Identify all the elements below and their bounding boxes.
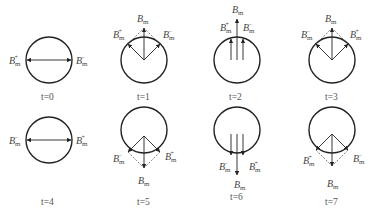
label-right: Bm− [243,21,255,35]
label-left: Bm+ [303,154,315,168]
panel-t5: Bm− Bm+ Bm t=5 [113,107,177,207]
panel-t2: Bm Bm+ Bm− t=2 [214,4,260,102]
label-left: Bm− [113,152,125,166]
label-right: Bm+ [76,134,88,148]
time-label: t=2 [229,92,242,102]
label-resultant: Bm [232,4,244,17]
label-right: Bm+ [350,28,362,42]
label-left: Bm+ [113,28,125,42]
label-left: Bm+ [220,21,232,35]
panel-t4: Bm− Bm+ t=4 [9,117,88,207]
diagram-svg: Bm+ Bm− t=0 Bm Bm+ Bm− t=1 Bm Bm+ Bm− t=… [0,0,376,219]
time-label: t=1 [137,92,150,102]
panel-t7: Bm+ Bm− Bm t=7 [303,107,365,207]
panel-t6: Bm− Bm+ Bm t=6 [214,107,261,202]
field-diagram: Bm+ Bm− t=0 Bm Bm+ Bm− t=1 Bm Bm+ Bm− t=… [0,0,376,219]
label-resultant: Bm [138,175,150,188]
label-left: Bm+ [9,54,21,68]
time-label: t=7 [325,197,338,207]
time-label: t=6 [230,192,243,202]
label-right: Bm+ [165,150,177,164]
label-right: Bm− [76,54,88,68]
label-right: Bm− [353,152,365,166]
label-right: Bm− [163,28,175,42]
label-left: Bm− [9,134,21,148]
time-label: t=0 [41,92,54,102]
label-resultant: Bm [137,13,149,26]
label-left: Bm− [301,28,313,42]
time-label: t=3 [325,92,338,102]
panel-t1: Bm Bm+ Bm− t=1 [113,13,175,102]
label-right: Bm+ [249,160,261,174]
panel-t0: Bm+ Bm− t=0 [9,37,88,102]
time-label: t=5 [137,197,150,207]
label-resultant: Bm [325,13,337,26]
time-label: t=4 [41,197,54,207]
label-left: Bm− [219,160,231,174]
label-resultant: Bm [327,178,339,191]
label-resultant: Bm [234,179,246,192]
panel-t3: Bm Bm− Bm+ t=3 [301,13,362,102]
